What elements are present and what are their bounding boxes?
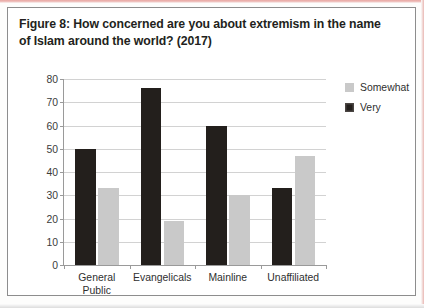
bar-very-evangelicals xyxy=(141,88,162,265)
x-axis-category-label: Unaffiliated xyxy=(267,272,319,285)
scanned-page: Figure 8: How concerned are you about ex… xyxy=(0,0,424,308)
y-axis-tick-label: 30 xyxy=(46,190,58,201)
x-axis-tick-mark xyxy=(64,265,65,269)
legend-label-somewhat: Somewhat xyxy=(360,82,409,93)
legend-item-very: Very xyxy=(345,102,415,113)
scan-edge-top xyxy=(0,0,424,3)
bar-very-mainline xyxy=(206,126,227,266)
bar-somewhat-general-public xyxy=(98,188,119,265)
x-axis-tick-mark xyxy=(261,265,262,269)
y-axis-tick-label: 70 xyxy=(46,97,58,108)
figure-container: Figure 8: How concerned are you about ex… xyxy=(7,7,416,296)
bar-very-general-public xyxy=(75,149,96,265)
figure-title: Figure 8: How concerned are you about ex… xyxy=(19,16,394,50)
y-axis-tick-label: 50 xyxy=(46,143,58,154)
bar-somewhat-evangelicals xyxy=(164,221,185,265)
x-axis-category-label: Mainline xyxy=(208,272,247,285)
bar-somewhat-unaffiliated xyxy=(295,156,316,265)
chart-plot-wrapper: 01020304050607080 General PublicEvangeli… xyxy=(8,60,417,296)
y-axis-tick-label: 60 xyxy=(46,120,58,131)
chart-legend: Somewhat Very xyxy=(345,82,415,122)
bar-very-unaffiliated xyxy=(272,188,293,265)
y-axis-tick-label: 20 xyxy=(46,213,58,224)
legend-label-very: Very xyxy=(360,102,381,113)
y-axis-tick-label: 0 xyxy=(52,260,58,271)
y-axis-tick-label: 10 xyxy=(46,236,58,247)
y-axis-tick-label: 40 xyxy=(46,167,58,178)
chart-plot-area: 01020304050607080 General PublicEvangeli… xyxy=(63,79,326,266)
legend-swatch-very-icon xyxy=(345,103,354,112)
x-axis-category-label: Evangelicals xyxy=(133,272,191,285)
x-axis-category-label: General Public xyxy=(78,272,115,297)
bar-somewhat-mainline xyxy=(229,195,250,265)
bar-series-layer xyxy=(64,79,326,265)
scan-edge-bottom xyxy=(0,304,424,308)
y-axis-tick-label: 80 xyxy=(46,74,58,85)
legend-swatch-somewhat-icon xyxy=(345,83,354,92)
x-axis-tick-mark xyxy=(326,265,327,269)
x-axis-tick-mark xyxy=(195,265,196,269)
legend-item-somewhat: Somewhat xyxy=(345,82,415,93)
x-axis-tick-mark xyxy=(130,265,131,269)
